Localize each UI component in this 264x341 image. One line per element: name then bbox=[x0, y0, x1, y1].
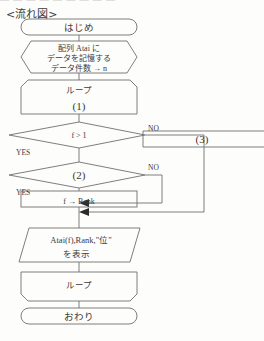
node-loopend-label: ループ bbox=[66, 280, 92, 290]
label-decision1-yes: YES bbox=[16, 148, 30, 157]
flowchart-page: — — — — — — — — — <流れ図> bbox=[0, 0, 264, 341]
node-start-label: はじめ bbox=[64, 23, 94, 33]
label-decision2-no: NO bbox=[148, 163, 159, 172]
flowchart-canvas: はじめ 配列 Atai に データを記憶する データ件数 → n ループ (1)… bbox=[0, 0, 264, 341]
node-decision2-label: (2) bbox=[73, 169, 86, 182]
connector-decision2-no bbox=[145, 175, 162, 203]
label-decision1-no: NO bbox=[148, 124, 159, 133]
node-prepare-line2: データを記憶する bbox=[47, 53, 111, 63]
node-output-line1: Atai(f),Rank,"位" bbox=[50, 235, 111, 245]
arrowhead-merge-2 bbox=[79, 208, 89, 216]
node-assign-label: f → Rank bbox=[63, 197, 95, 206]
node-loopstart-label: ループ bbox=[66, 85, 92, 95]
node-loopstart-sublabel: (1) bbox=[73, 100, 86, 113]
node-output-line2: を表示 bbox=[63, 249, 90, 259]
node-end-label: おわり bbox=[64, 312, 94, 322]
node-decision1-label: f > 1 bbox=[71, 131, 86, 140]
node-box3-label: (3) bbox=[196, 133, 209, 146]
node-prepare-line1: 配列 Atai に bbox=[58, 43, 100, 53]
label-decision2-yes: YES bbox=[16, 188, 30, 197]
node-prepare-line3: データ件数 → n bbox=[51, 63, 107, 73]
